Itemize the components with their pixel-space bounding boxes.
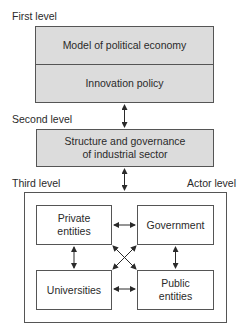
connector-arrows	[0, 0, 246, 333]
